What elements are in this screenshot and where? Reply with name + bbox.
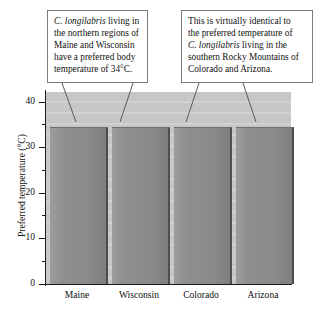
bar-wisconsin xyxy=(112,127,170,284)
callout-southern-populations: This is virtually identical to the prefe… xyxy=(181,10,313,83)
callout-right-line-3-tail: living in the xyxy=(240,40,287,50)
y-tick-5 xyxy=(42,261,46,262)
plot-area xyxy=(46,92,291,284)
x-tick-label-arizona: Arizona xyxy=(232,289,294,300)
callout-left-line-2: the northern regions of xyxy=(54,27,142,39)
y-tick-20 xyxy=(39,193,46,194)
y-tick-35 xyxy=(42,124,46,125)
y-tick-25 xyxy=(42,170,46,171)
bar-maine xyxy=(50,127,108,284)
callout-left-line-4: have a preferred body xyxy=(54,51,142,63)
callout-right-line-1: This is virtually identical to xyxy=(188,15,307,27)
x-tick-label-maine: Maine xyxy=(46,289,108,300)
callout-right-line-3: C. longilabris living in the xyxy=(188,39,307,51)
callout-left-line-1-tail: living in xyxy=(106,16,140,26)
callout-northern-populations: C. longilabris living in the northern re… xyxy=(47,10,148,83)
y-axis-line xyxy=(45,90,46,286)
y-tick-15 xyxy=(42,215,46,216)
y-tick-10 xyxy=(39,238,46,239)
callout-right-line-2: the preferred temperature of xyxy=(188,27,307,39)
x-tick-label-colorado: Colorado xyxy=(170,289,232,300)
callout-left-line-5: temperature of 34°C. xyxy=(54,63,142,75)
y-tick-0 xyxy=(39,284,46,285)
callout-right-line-5: Colorado and Arizona. xyxy=(188,63,307,75)
y-tick-30 xyxy=(39,147,46,148)
y-tick-label-0: 0 xyxy=(0,278,35,288)
x-tick-label-wisconsin: Wisconsin xyxy=(108,289,170,300)
species-name-italic: C. longilabris xyxy=(54,16,106,26)
callout-left-line-1: C. longilabris living in xyxy=(54,15,142,27)
y-axis-title: Preferred temperature (°C) xyxy=(16,101,27,271)
callout-left-line-3: Maine and Wisconsin xyxy=(54,39,142,51)
bar-arizona xyxy=(236,127,294,284)
figure-bar-chart: 40 30 20 10 0 Preferred temperature (°C)… xyxy=(0,0,328,314)
x-axis-line xyxy=(45,284,292,285)
bar-colorado xyxy=(174,127,232,284)
species-name-italic-2: C. longilabris xyxy=(188,40,240,50)
callout-right-line-4: southern Rocky Mountains of xyxy=(188,51,307,63)
y-tick-40 xyxy=(39,102,46,103)
